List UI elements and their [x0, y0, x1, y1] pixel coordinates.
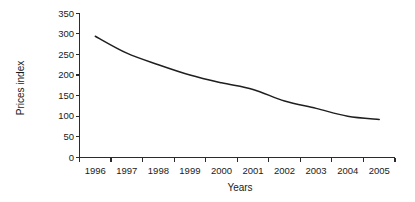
line-chart-canvas: Prices index 350 300 250 200 150 100 50 … — [0, 0, 415, 202]
chart-figure: Prices index 350 300 250 200 150 100 50 … — [0, 0, 415, 202]
y-axis-title: Prices index — [15, 61, 26, 115]
x-tick-label-1999: 1999 — [179, 165, 200, 176]
x-tick-label-2005: 2005 — [369, 165, 390, 176]
x-tick-label-2001: 2001 — [242, 165, 263, 176]
y-tick-label-200: 200 — [58, 69, 74, 80]
x-tick-label-2000: 2000 — [211, 165, 232, 176]
y-tick-label-100: 100 — [58, 110, 74, 121]
y-tick-label-250: 250 — [58, 49, 74, 60]
x-tick-label-1998: 1998 — [148, 165, 169, 176]
y-tick-label-50: 50 — [63, 131, 74, 142]
x-tick-label-2004: 2004 — [337, 165, 358, 176]
y-tick-label-0: 0 — [69, 152, 74, 163]
x-tick-label-1997: 1997 — [116, 165, 137, 176]
y-tick-label-350: 350 — [58, 8, 74, 19]
x-tick-label-2002: 2002 — [274, 165, 295, 176]
y-tick-label-300: 300 — [58, 28, 74, 39]
x-axis-title: Years — [227, 182, 252, 193]
prices-index-line — [95, 36, 379, 119]
y-tick-label-150: 150 — [58, 90, 74, 101]
x-tick-label-1996: 1996 — [85, 165, 106, 176]
x-tick-label-2003: 2003 — [306, 165, 327, 176]
